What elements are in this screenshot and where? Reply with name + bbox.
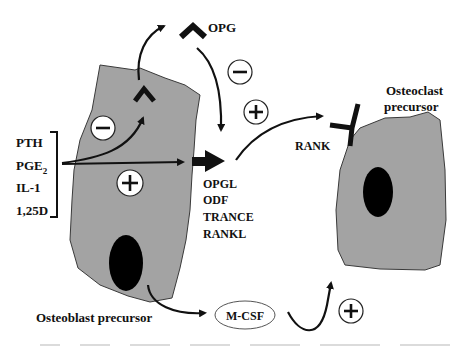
signal-il1: IL-1	[16, 180, 41, 195]
signal-pge: PGE2	[16, 158, 48, 176]
minus-sign-cell-icon	[91, 116, 115, 140]
ligand-rankl: RANKL	[203, 227, 246, 241]
arrow-rankl-to-rank	[236, 116, 322, 160]
osteoclast-nucleus	[363, 167, 393, 217]
osteoblast-label: Osteoblast precursor	[36, 310, 153, 325]
opg-molecule-icon	[181, 26, 205, 37]
plus-sign-rankl-icon	[244, 100, 268, 124]
osteoclastogenesis-diagram: OPG RANK Osteoclast precursor PTH PGE2 I…	[0, 0, 466, 348]
ligand-trance: TRANCE	[203, 210, 254, 224]
arrow-mcsf-to-osteoclast	[288, 283, 331, 330]
osteoblast-nucleus	[109, 235, 143, 291]
signal-125d: 1,25D	[16, 203, 48, 218]
arrow-opg-to-rankl	[197, 48, 221, 130]
ligand-odf: ODF	[203, 193, 228, 207]
osteoclast-label-line2: precursor	[384, 99, 439, 114]
signal-pth: PTH	[16, 135, 43, 150]
osteoclast-label-line1: Osteoclast	[386, 83, 444, 98]
plus-sign-cell-icon	[117, 170, 143, 196]
minus-sign-opg-icon	[228, 60, 252, 84]
mcsf-label: M-CSF	[226, 309, 264, 323]
rankl-arrow-icon	[192, 150, 225, 172]
opg-label: OPG	[208, 20, 236, 35]
plus-sign-mcsf-icon	[339, 299, 363, 323]
ligand-opgl: OPGL	[203, 177, 237, 191]
signal-bracket	[50, 132, 57, 217]
signal-list: PTH PGE2 IL-1 1,25D	[16, 132, 57, 218]
rank-label: RANK	[295, 139, 331, 153]
